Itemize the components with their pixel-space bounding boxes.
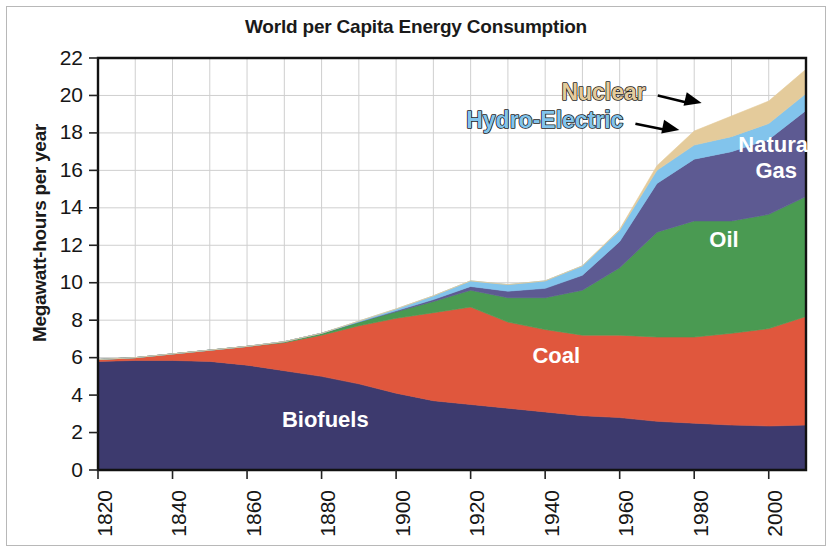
callout-annotations: NuclearHydro-Electric <box>466 79 701 134</box>
y-tick-label: 18 <box>60 120 83 143</box>
x-tick-label: 1820 <box>93 490 116 537</box>
callout-label-nuclear: Nuclear <box>561 79 645 105</box>
x-tick-label: 1960 <box>614 490 637 537</box>
series-label-coal: Coal <box>532 343 580 368</box>
y-tick-label: 14 <box>60 195 84 218</box>
series-label-natural-gas: Natural <box>738 132 814 157</box>
y-tick-label: 12 <box>60 233 83 256</box>
callout-arrow-head <box>684 92 702 106</box>
x-tick-label: 1880 <box>316 490 339 537</box>
callout-arrow-head <box>661 120 679 134</box>
chart-page: World per Capita Energy Consumption Mega… <box>0 0 832 552</box>
x-tick-label: 1840 <box>167 490 190 537</box>
y-tick-label: 16 <box>60 158 83 181</box>
x-tick-label: 1920 <box>465 490 488 537</box>
y-tick-label: 2 <box>71 420 83 443</box>
area-series-layer <box>98 69 806 470</box>
y-tick-label: 22 <box>60 46 83 69</box>
callout-arrow-line <box>658 96 689 103</box>
x-tick-label: 1900 <box>391 490 414 537</box>
y-tick-label: 10 <box>60 270 83 293</box>
y-tick-label: 4 <box>71 383 83 406</box>
x-tick-label: 1980 <box>689 490 712 537</box>
x-tick-label: 1940 <box>540 490 563 537</box>
callout-label-hydro-electric: Hydro-Electric <box>466 107 623 133</box>
x-tick-label: 2000 <box>763 490 786 537</box>
y-tick-label: 6 <box>71 345 83 368</box>
stacked-area-chart: 0246810121416182022182018401860188019001… <box>0 0 832 552</box>
x-tick-label: 1860 <box>242 490 265 537</box>
y-tick-label: 0 <box>71 458 83 481</box>
series-label-oil: Oil <box>709 227 738 252</box>
y-tick-label: 20 <box>60 83 83 106</box>
y-tick-label: 8 <box>71 308 83 331</box>
series-label-biofuels: Biofuels <box>282 407 369 432</box>
callout-arrow-line <box>635 124 666 130</box>
series-label-natural-gas: Gas <box>755 158 797 183</box>
